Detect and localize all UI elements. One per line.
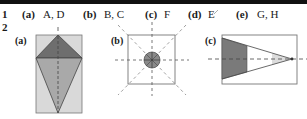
panel-b-square-diagram — [115, 22, 189, 96]
figure-canvas — [0, 0, 307, 119]
panel-c-triangle-diagram — [208, 10, 307, 84]
panel-a-kite-diagram — [36, 27, 82, 113]
